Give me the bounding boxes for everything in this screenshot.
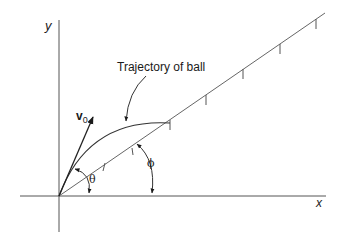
theta-angle-arc xyxy=(75,169,89,193)
theta-tick xyxy=(103,163,105,171)
velocity-subscript: 0 xyxy=(83,115,88,125)
incline-line xyxy=(59,13,325,196)
trajectory-label: Trajectory of ball xyxy=(117,60,205,74)
incline-ticks xyxy=(170,19,316,130)
trajectory-leader-arrow xyxy=(126,76,146,121)
phi-label: ϕ xyxy=(147,157,155,170)
x-axis-label: x xyxy=(315,196,323,210)
incline-projectile-diagram: y x Trajectory of ball v0 θ ϕ xyxy=(0,0,343,236)
y-axis-label: y xyxy=(44,18,53,33)
phi-tick xyxy=(132,148,133,155)
theta-label: θ xyxy=(89,173,96,186)
velocity-label: v0 xyxy=(76,109,88,125)
